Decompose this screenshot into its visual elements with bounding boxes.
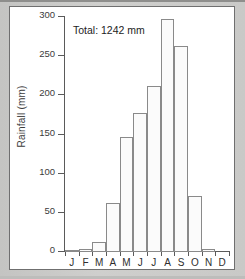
y-tick-label: 150 (39, 127, 55, 138)
x-tick-label: A (106, 257, 120, 268)
bar (120, 137, 134, 252)
x-tick-label: J (147, 257, 161, 268)
x-tick-label: O (188, 257, 202, 268)
bar (147, 86, 161, 252)
x-tick-label: F (79, 257, 93, 268)
top-divider (0, 0, 245, 2)
plot-area: Rainfall (mm) 050100150200250300 JFMAMJJ… (10, 7, 234, 269)
x-tick-label: M (120, 257, 134, 268)
bar (133, 113, 147, 252)
y-tick: 50 (58, 212, 64, 213)
x-tick-label: D (215, 257, 229, 268)
y-tick: 200 (58, 94, 64, 95)
y-tick-label: 0 (50, 244, 55, 255)
x-tick-label: J (133, 257, 147, 268)
x-tick-label: N (202, 257, 216, 268)
y-axis-title: Rainfall (mm) (16, 62, 27, 172)
y-tick: 300 (58, 16, 64, 17)
bar-series-rainfall (65, 16, 229, 252)
bar (161, 19, 175, 252)
y-tick-label: 250 (39, 48, 55, 59)
bar (79, 249, 93, 252)
x-tick-label: M (92, 257, 106, 268)
y-tick: 100 (58, 173, 64, 174)
bar (92, 242, 106, 252)
y-tick-label: 200 (39, 87, 55, 98)
total-annotation: Total: 1242 mm (73, 24, 145, 36)
bar (188, 196, 202, 252)
bar (65, 250, 79, 252)
bar (174, 46, 188, 252)
x-tick-label: J (65, 257, 79, 268)
y-tick: 0 (58, 251, 64, 252)
x-tick-label: A (161, 257, 175, 268)
figure-root: Rainfall (mm) 050100150200250300 JFMAMJJ… (0, 0, 245, 279)
bar (202, 249, 216, 252)
y-tick-label: 50 (44, 205, 55, 216)
y-tick-label: 100 (39, 166, 55, 177)
x-tick-label: S (174, 257, 188, 268)
y-tick-label: 300 (39, 9, 55, 20)
bar (106, 203, 120, 252)
y-tick: 150 (58, 134, 64, 135)
y-tick: 250 (58, 55, 64, 56)
chart-panel: Rainfall (mm) 050100150200250300 JFMAMJJ… (9, 6, 235, 270)
x-tick (229, 251, 230, 256)
